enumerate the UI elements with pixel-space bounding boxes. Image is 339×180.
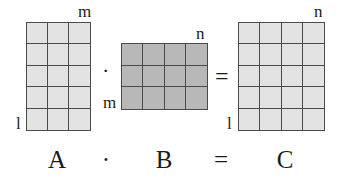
matrix-c-col-label: n xyxy=(314,3,323,20)
matrix-cell xyxy=(239,44,260,65)
matrix-cell xyxy=(239,87,260,108)
equals-operator: = xyxy=(215,64,229,88)
matrix-cell xyxy=(143,44,164,66)
matrix-cell xyxy=(239,23,260,44)
matrix-c-row-label: l xyxy=(227,115,232,132)
matrix-cell xyxy=(260,109,281,130)
matrix-cell xyxy=(143,66,164,88)
matrix-cell xyxy=(27,23,48,44)
matrix-cell xyxy=(27,109,48,130)
matrix-cell xyxy=(282,109,303,130)
matrix-cell xyxy=(186,66,207,88)
equation-a: A xyxy=(48,147,66,172)
equation-b: B xyxy=(156,147,173,172)
matrix-cell xyxy=(282,87,303,108)
matrix-cell xyxy=(165,44,186,66)
matrix-cell xyxy=(48,23,69,44)
matrix-cell xyxy=(122,44,143,66)
matrix-b-grid xyxy=(121,43,208,110)
matrix-cell xyxy=(260,23,281,44)
matrix-cell xyxy=(27,44,48,65)
matrix-cell xyxy=(303,87,324,108)
matrix-cell xyxy=(260,87,281,108)
matrix-cell xyxy=(303,23,324,44)
equation-c: C xyxy=(277,147,294,172)
matrix-cell xyxy=(69,87,90,108)
matrix-cell xyxy=(69,66,90,87)
matrix-cell xyxy=(303,44,324,65)
matrix-cell xyxy=(165,87,186,109)
matrix-cell xyxy=(122,66,143,88)
matrix-cell xyxy=(303,109,324,130)
matrix-cell xyxy=(186,44,207,66)
matrix-cell xyxy=(48,109,69,130)
matrix-cell xyxy=(69,109,90,130)
matrix-cell xyxy=(122,87,143,109)
matrix-a-row-label: l xyxy=(16,115,21,132)
matrix-cell xyxy=(165,66,186,88)
equation-equals: = xyxy=(214,147,228,172)
equation-dot: · xyxy=(102,147,110,172)
matrix-b-row-label: m xyxy=(103,94,116,111)
matrix-a-grid xyxy=(26,22,91,131)
matrix-cell xyxy=(48,44,69,65)
matrix-cell xyxy=(282,44,303,65)
matrix-cell xyxy=(27,66,48,87)
matrix-cell xyxy=(303,66,324,87)
matrix-cell xyxy=(186,87,207,109)
matrix-a-col-label: m xyxy=(78,3,91,20)
matrix-cell xyxy=(282,66,303,87)
matrix-cell xyxy=(69,44,90,65)
matrix-cell xyxy=(27,87,48,108)
matrix-cell xyxy=(239,109,260,130)
multiply-operator: · xyxy=(102,60,109,82)
matrix-cell xyxy=(48,66,69,87)
matrix-cell xyxy=(260,44,281,65)
matrix-cell xyxy=(282,23,303,44)
matrix-cell xyxy=(239,66,260,87)
matrix-b-col-label: n xyxy=(196,25,205,42)
matrix-cell xyxy=(260,66,281,87)
matrix-cell xyxy=(143,87,164,109)
matrix-c-grid xyxy=(238,22,325,131)
matrix-cell xyxy=(48,87,69,108)
matrix-cell xyxy=(69,23,90,44)
